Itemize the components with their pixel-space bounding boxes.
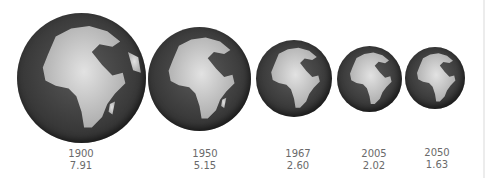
value-label: 7.91 [56, 160, 106, 172]
globe-icon-1967 [256, 40, 332, 117]
year-label: 1950 [180, 148, 230, 160]
globe-icon-2050 [405, 47, 465, 109]
year-label: 1967 [273, 148, 323, 160]
year-label: 2050 [412, 147, 462, 159]
globe-icon-1900 [17, 13, 146, 143]
page-edge-divider [483, 0, 485, 178]
globe-icon-1950 [148, 27, 251, 131]
label-1950: 1950 5.15 [180, 148, 230, 172]
label-2050: 2050 1.63 [412, 147, 462, 171]
year-label: 2005 [349, 148, 399, 160]
value-label: 1.63 [412, 159, 462, 171]
year-label: 1900 [56, 148, 106, 160]
value-label: 2.60 [273, 160, 323, 172]
globe-icon-2005 [337, 46, 402, 112]
value-label: 5.15 [180, 160, 230, 172]
label-1967: 1967 2.60 [273, 148, 323, 172]
value-label: 2.02 [349, 160, 399, 172]
label-1900: 1900 7.91 [56, 148, 106, 172]
label-2005: 2005 2.02 [349, 148, 399, 172]
